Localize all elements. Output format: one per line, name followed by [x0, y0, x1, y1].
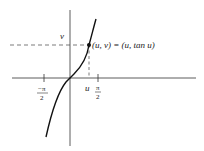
point-u-tan-u — [87, 43, 91, 47]
u-label: u — [85, 83, 90, 93]
v-label: v — [60, 31, 64, 41]
tan-graph: v (u, v) = (u, tan u) u −π 2 π 2 — [0, 0, 204, 151]
neg-pi-denominator: 2 — [40, 94, 44, 102]
pi-denominator: 2 — [96, 93, 100, 101]
neg-pi-numerator: −π — [38, 85, 46, 93]
pi-numerator: π — [96, 84, 100, 92]
point-label: (u, v) = (u, tan u) — [92, 40, 155, 50]
